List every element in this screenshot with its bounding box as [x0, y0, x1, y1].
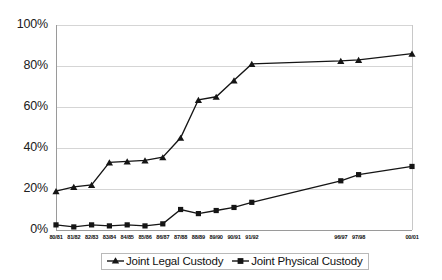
- legend-label-joint-physical-custody: Joint Physical Custody: [251, 255, 362, 267]
- y-axis-tick-label: 20%: [4, 181, 48, 195]
- data-point-marker: [214, 208, 219, 213]
- data-point-marker: [71, 224, 76, 229]
- x-axis-tick-label: 97/98: [346, 234, 372, 240]
- y-axis-tick-label: 80%: [4, 58, 48, 72]
- series-layer: [52, 51, 415, 230]
- plot-frame: [56, 25, 412, 230]
- x-axis-tick-label: 00/01: [399, 234, 425, 240]
- y-axis-tick-label: 40%: [4, 140, 48, 154]
- data-point-marker: [107, 223, 112, 228]
- square-marker-icon: [232, 256, 249, 266]
- data-point-marker: [160, 221, 165, 226]
- data-point-marker: [89, 222, 94, 227]
- gridlines: [56, 25, 412, 230]
- x-axis-tick-label: 91/92: [239, 234, 265, 240]
- data-point-marker: [356, 172, 361, 177]
- data-point-marker: [196, 211, 201, 216]
- y-axis-tick-label: 100%: [4, 17, 48, 31]
- legend-item-joint-physical-custody: Joint Physical Custody: [232, 255, 362, 267]
- data-point-marker: [125, 222, 130, 227]
- legend-label-joint-legal-custody: Joint Legal Custody: [126, 255, 223, 267]
- triangle-marker-icon: [107, 256, 124, 266]
- data-point-marker: [177, 135, 184, 141]
- y-axis-tick-label: 0%: [4, 222, 48, 236]
- data-point-marker: [249, 200, 254, 205]
- y-axis-tick-label: 60%: [4, 99, 48, 113]
- data-point-marker: [142, 223, 147, 228]
- data-point-marker: [178, 207, 183, 212]
- line-chart: 100%80%60%40%20%0% 80/8181/8282/8383/848…: [0, 0, 442, 280]
- legend-item-joint-legal-custody: Joint Legal Custody: [107, 255, 223, 267]
- data-point-marker: [338, 178, 343, 183]
- chart-legend: Joint Legal Custody Joint Physical Custo…: [101, 253, 369, 270]
- data-point-marker: [409, 164, 414, 169]
- data-point-marker: [53, 222, 58, 227]
- series-line-0: [56, 54, 412, 191]
- data-point-marker: [231, 205, 236, 210]
